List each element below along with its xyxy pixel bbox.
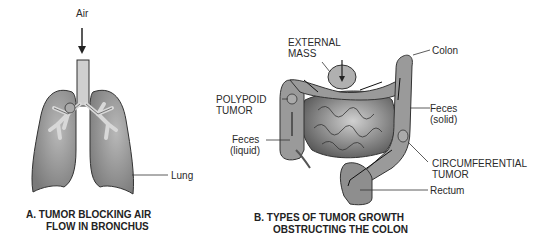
bronchial-tree	[50, 104, 116, 138]
caption-b-line1: B. TYPES OF TUMOR GROWTH	[254, 212, 404, 224]
external-mass-label-line2: MASS	[288, 48, 316, 59]
feces-solid-label-line2: (solid)	[430, 114, 457, 125]
air-label: Air	[76, 8, 88, 19]
right-lung	[90, 90, 134, 194]
caption-b-line2: OBSTRUCTING THE COLON	[273, 224, 408, 236]
circumferential-tumor-label-line2: TUMOR	[432, 169, 469, 180]
diagram-artwork	[0, 0, 557, 238]
rectum-label: Rectum	[430, 185, 464, 196]
trachea	[77, 60, 89, 106]
lung-label: Lung	[171, 170, 193, 181]
caption-a-line1: A. TUMOR BLOCKING AIR	[26, 209, 151, 221]
bronchus-tumor	[65, 103, 75, 113]
circumferential-tumor	[398, 130, 408, 142]
polypoid-tumor-label-line1: POLYPOID	[216, 94, 266, 105]
feces-solid-label-line1: Feces	[430, 103, 457, 114]
external-mass	[328, 60, 356, 89]
external-mass-label-line1: EXTERNAL	[288, 37, 341, 48]
feces-liquid-label-line2: (liquid)	[230, 145, 260, 156]
feces-liquid-label-line1: Feces	[232, 134, 259, 145]
polypoid-tumor-label-line2: TUMOR	[216, 105, 253, 116]
circumferential-tumor-label-line1: CIRCUMFERENTIAL	[432, 158, 527, 169]
small-intestine	[301, 91, 395, 158]
caption-a-line2: FLOW IN BRONCHUS	[46, 221, 149, 233]
colon-label: Colon	[432, 45, 458, 56]
polypoid-tumor	[287, 94, 297, 104]
air-arrow-icon	[78, 28, 86, 54]
